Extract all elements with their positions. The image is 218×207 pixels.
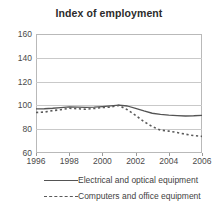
- chart-legend: Electrical and optical equipmentComputer…: [0, 172, 218, 204]
- legend-item[interactable]: Computers and office equipment: [0, 188, 218, 204]
- plot-area: [36, 34, 202, 153]
- y-axis-tick-label: 100: [2, 101, 32, 109]
- x-axis-tick-label: 2004: [159, 156, 178, 166]
- x-axis-tick-label: 1998: [60, 156, 79, 166]
- solid-line-icon: [44, 175, 78, 185]
- dashed-line-icon: [44, 191, 78, 201]
- x-axis-tick-label: 2002: [126, 156, 145, 166]
- series-line: [36, 105, 202, 136]
- x-axis-tick-label: 2006: [193, 156, 212, 166]
- y-axis-tick-label: 160: [2, 30, 32, 38]
- data-series-layer: [36, 34, 202, 153]
- y-axis-tick-label: 140: [2, 54, 32, 62]
- series-line: [36, 105, 202, 116]
- legend-item-label: Electrical and optical equipment: [78, 175, 198, 185]
- legend-item-label: Computers and office equipment: [78, 191, 201, 201]
- chart-container: Index of employment 6080100120140160 199…: [0, 0, 218, 207]
- y-axis-tick-label: 120: [2, 78, 32, 86]
- chart-title: Index of employment: [0, 7, 218, 19]
- y-axis-tick-label: 80: [2, 125, 32, 133]
- legend-item[interactable]: Electrical and optical equipment: [0, 172, 218, 188]
- x-axis-tick-label: 1996: [27, 156, 46, 166]
- x-axis-tick-label: 2000: [93, 156, 112, 166]
- y-axis-tick-labels: 6080100120140160: [0, 34, 32, 153]
- x-axis-tick-labels: 199619982000200220042006: [36, 156, 202, 168]
